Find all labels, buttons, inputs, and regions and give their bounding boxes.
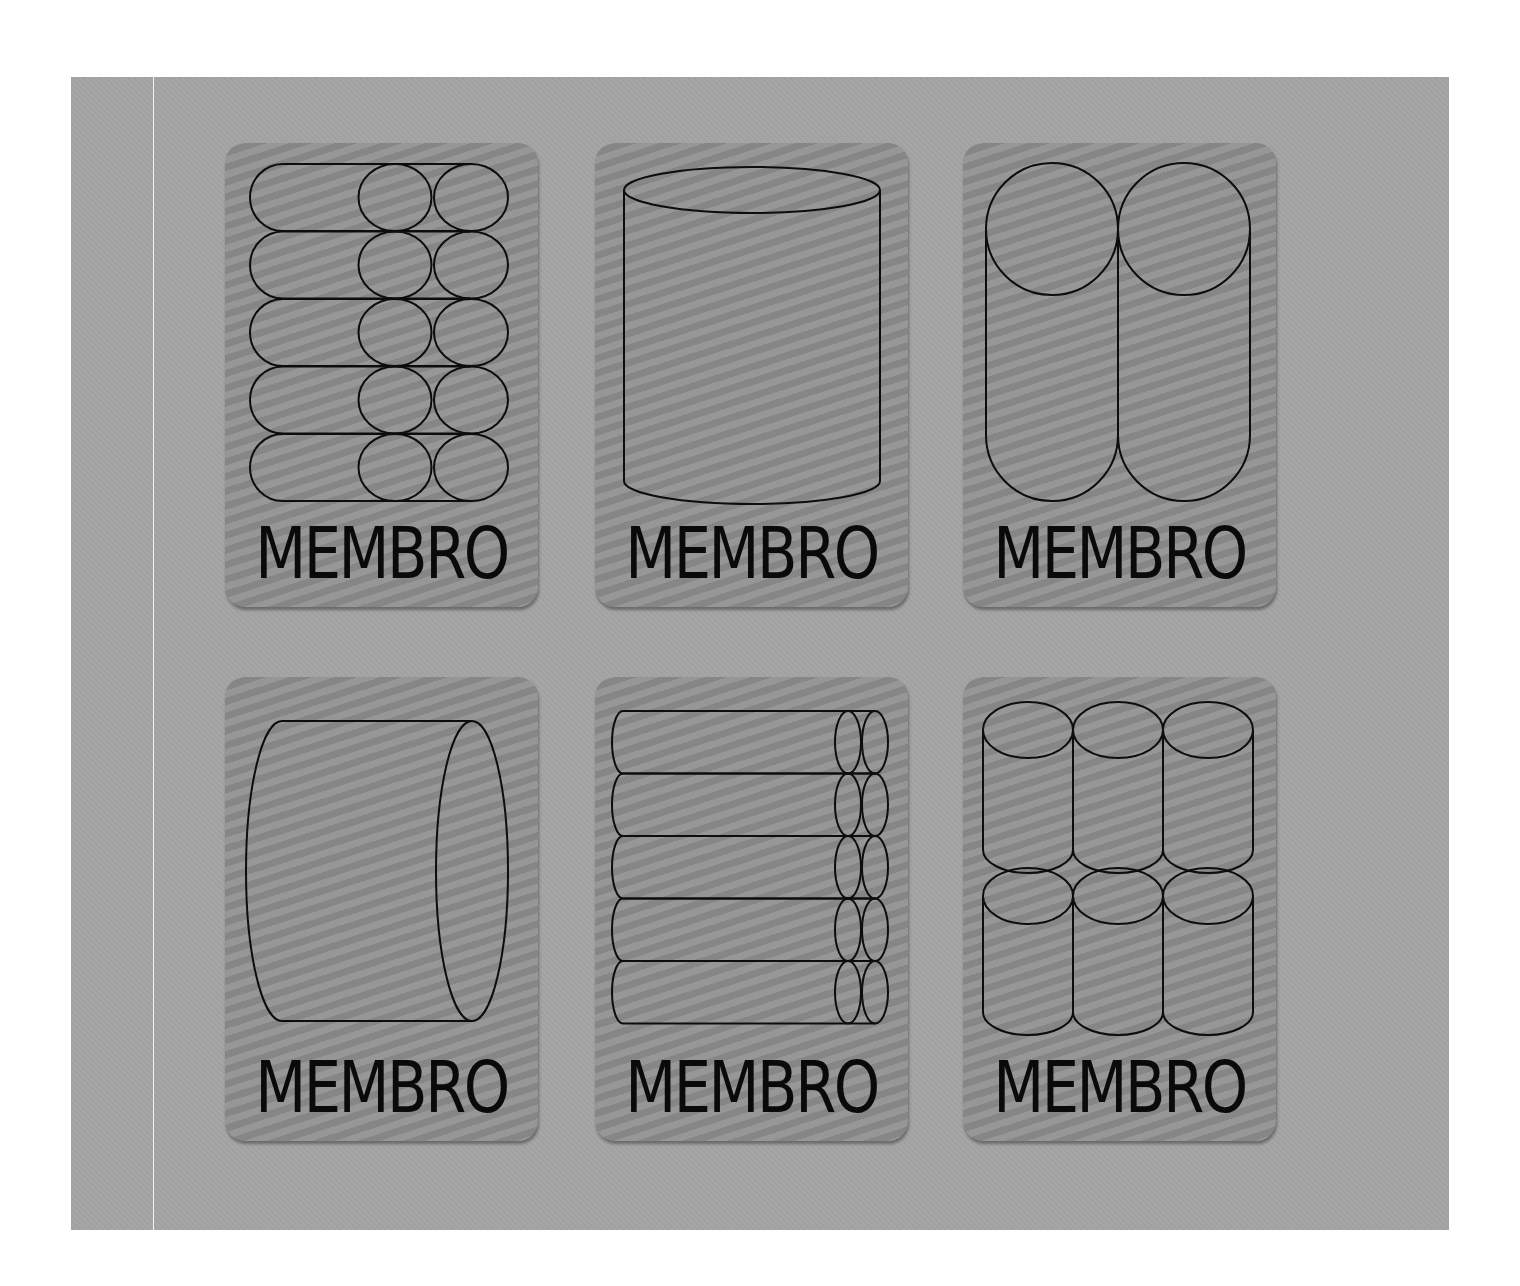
card-label: MEMBRO	[253, 1047, 510, 1127]
card-label: MEMBRO	[623, 513, 880, 593]
card-label: MEMBRO	[991, 1047, 1248, 1127]
membro-card-4[interactable]: MEMBRO	[225, 677, 538, 1141]
card-label: MEMBRO	[253, 513, 510, 593]
membro-card-1[interactable]: MEMBRO	[225, 143, 538, 607]
guide-line	[153, 77, 154, 1230]
card-label: MEMBRO	[991, 513, 1248, 593]
membro-card-5[interactable]: MEMBRO	[595, 677, 908, 1141]
membro-card-6[interactable]: MEMBRO	[963, 677, 1276, 1141]
membro-card-3[interactable]: MEMBRO	[963, 143, 1276, 607]
card-label: MEMBRO	[623, 1047, 880, 1127]
membro-card-2[interactable]: MEMBRO	[595, 143, 908, 607]
